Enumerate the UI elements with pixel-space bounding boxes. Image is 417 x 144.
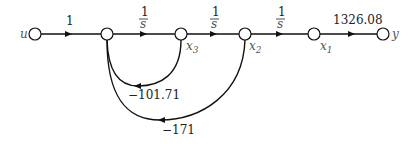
node-label-x1: x1 [320, 39, 333, 55]
node-u [29, 28, 41, 40]
arrow-icon [348, 31, 355, 37]
node-n1 [101, 28, 113, 40]
gain-x3-x2: 1 s [210, 5, 220, 31]
svg-text:s: s [211, 17, 217, 31]
gain-n1-x3: 1 s [139, 5, 149, 31]
loop-x2-n1 [107, 40, 245, 120]
signal-flow-graph: u y x3 x2 x1 1 1 s 1 s 1 s 1326.08 −101.… [0, 0, 417, 144]
gain-u-n1: 1 [66, 14, 74, 28]
node-x1 [308, 28, 320, 40]
gain-x2-x1: 1 s [276, 5, 286, 31]
node-label-x2: x2 [249, 39, 262, 55]
feedback-loops [107, 40, 245, 120]
arrow-icon [210, 31, 217, 37]
node-label-y: y [391, 27, 399, 41]
node-label-x3: x3 [186, 39, 199, 55]
gain-x3-n1: −101.71 [128, 88, 180, 102]
gain-x1-y: 1326.08 [333, 13, 383, 27]
svg-text:s: s [140, 17, 146, 31]
loop-x3-n1 [107, 40, 181, 86]
gain-x2-n1: −171 [162, 123, 195, 137]
arrow-icon [276, 31, 283, 37]
arrow-icon [140, 31, 147, 37]
node-label-u: u [20, 27, 28, 41]
svg-text:s: s [277, 17, 283, 31]
node-y [377, 28, 389, 40]
arrow-icon [65, 31, 72, 37]
